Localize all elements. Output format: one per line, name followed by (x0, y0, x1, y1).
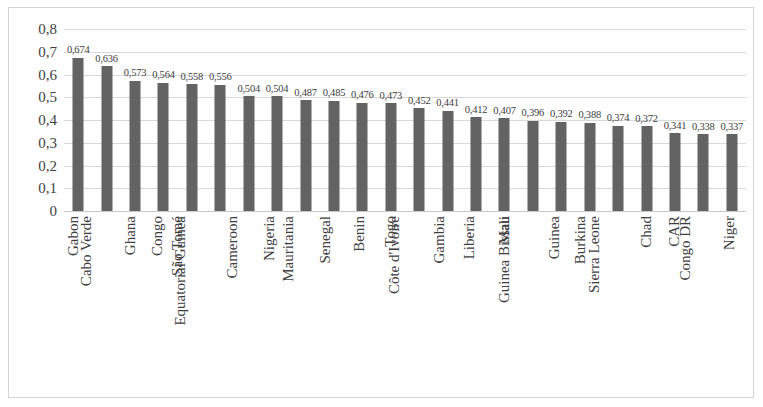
x-axis-tick-label: Cameroon (217, 154, 232, 216)
y-axis: 0,80,70,60,50,40,30,20,10 (17, 29, 57, 211)
x-axis-tick-label: Gambia (424, 169, 439, 216)
x-axis-tick-label: Congo (143, 176, 158, 216)
x-axis-tick-label: Burkina (566, 168, 581, 216)
bar[interactable] (613, 126, 624, 211)
bar-value-label: 0,374 (607, 113, 630, 124)
y-axis-tick-label: 0,1 (17, 181, 57, 196)
bar-value-label: 0,476 (351, 90, 374, 101)
x-axis-tick-label-text: Senegal (318, 216, 333, 263)
x-axis-label-slot: Congo DR (689, 214, 717, 394)
chart-frame: 0,80,70,60,50,40,30,20,10 0,6740,6360,57… (8, 7, 754, 398)
bar-value-label: 0,573 (124, 68, 147, 79)
bar-value-label: 0,504 (266, 84, 289, 95)
bar-value-label: 0,674 (67, 45, 90, 56)
x-axis-label-slot: Chad (632, 214, 660, 394)
bar-slot: 0,558 (178, 29, 206, 211)
bar[interactable] (442, 111, 453, 211)
x-axis-tick-label-text: Equatorial Guinea (173, 216, 188, 326)
y-axis-tick-label: 0,8 (17, 22, 57, 37)
x-axis-tick-label: Guinea Bissau (489, 129, 504, 216)
bar[interactable] (328, 101, 339, 211)
bar[interactable] (186, 84, 197, 211)
bar-value-label: 0,485 (323, 88, 346, 99)
x-axis-tick-label-text: Côte d'Ivoire (388, 216, 403, 294)
x-axis-label-slot: Cameroon (235, 214, 263, 394)
x-axis-tick-label-text: Gambia (431, 216, 446, 263)
bar-slot: 0,338 (689, 29, 717, 211)
bar-value-label: 0,372 (635, 114, 658, 125)
x-axis-tick-label-text: Guinea (547, 216, 562, 259)
bar-value-label: 0,341 (664, 121, 687, 132)
y-axis-tick-label: 0,3 (17, 135, 57, 150)
bar-value-label: 0,412 (465, 105, 488, 116)
bar[interactable] (698, 134, 709, 211)
bar-value-label: 0,452 (408, 96, 431, 107)
x-axis-tick-label-text: Cameroon (225, 216, 240, 278)
x-axis-tick-label-text: Niger (722, 216, 737, 250)
x-axis-label-slot: Niger (718, 214, 746, 394)
x-axis-tick-label-text: Mauritania (280, 216, 295, 282)
x-axis-tick-label: Equatorial Guinea (166, 106, 181, 216)
x-axis-tick-label: Côte d'Ivoire (380, 138, 395, 216)
y-axis-tick-label: 0,5 (17, 90, 57, 105)
x-axis-label-slot: Senegal (320, 214, 348, 394)
x-axis-label-slot: Mauritania (291, 214, 319, 394)
y-axis-tick-label: 0,7 (17, 44, 57, 59)
bar-value-label: 0,558 (181, 72, 204, 83)
bar-value-label: 0,473 (379, 91, 402, 102)
x-axis-tick-label-text: Congo (151, 216, 166, 256)
x-axis-tick-label: Benin (344, 180, 359, 216)
x-axis-tick-label: Niger (715, 182, 730, 216)
bar-value-label: 0,636 (95, 54, 118, 65)
x-axis-tick-label-text: Ghana (123, 216, 138, 255)
x-axis-tick-label: Guinea (540, 173, 555, 216)
bar-value-label: 0,388 (578, 110, 601, 121)
x-axis-category-labels: GabonCabo VerdeGhanaCongoSão ToméEquator… (64, 214, 746, 394)
bar[interactable] (130, 81, 141, 211)
x-axis-tick-label-text: Benin (352, 216, 367, 252)
bar[interactable] (527, 121, 538, 211)
x-axis-tick-label-text: Chad (638, 216, 653, 248)
bar-value-label: 0,564 (152, 70, 175, 81)
x-axis-tick-label: Liberia (454, 173, 469, 216)
x-axis-label-slot: Guinea (547, 214, 575, 394)
x-axis-tick-label: Senegal (310, 169, 325, 216)
bar-value-label: 0,556 (209, 72, 232, 83)
bar-value-label: 0,338 (692, 122, 715, 133)
x-axis-label-slot: Benin (348, 214, 376, 394)
bar-slot: 0,374 (604, 29, 632, 211)
x-axis-tick-label: Cabo Verde (72, 146, 87, 216)
x-axis-tick-label-text: Guinea Bissau (497, 216, 512, 303)
x-axis-tick-label: Nigeria (255, 171, 270, 216)
bar[interactable] (414, 108, 425, 211)
x-axis-tick-label-text: Liberia (462, 216, 477, 259)
x-axis-tick-label-text: Nigeria (262, 216, 277, 261)
x-axis-label-slot: Cabo Verde (92, 214, 120, 394)
x-axis-label-slot: Liberia (462, 214, 490, 394)
x-axis-tick-label: Chad (631, 184, 646, 216)
bar-value-label: 0,407 (493, 106, 516, 117)
bar-value-label: 0,392 (550, 109, 573, 120)
x-axis-tick-label: Sierra Leone (580, 139, 595, 216)
x-axis-label-slot: Sierra Leone (604, 214, 632, 394)
bar-value-label: 0,337 (720, 122, 743, 133)
bar[interactable] (243, 96, 254, 211)
x-axis-label-slot: Guinea Bissau (519, 214, 547, 394)
x-axis-tick-label-text: Sierra Leone (587, 216, 602, 293)
x-axis-tick-label-text: Congo DR (679, 216, 694, 281)
x-axis-tick-label-text: Cabo Verde (79, 216, 94, 286)
x-axis-label-slot: Gambia (433, 214, 461, 394)
chart-plot-wrapper: 0,80,70,60,50,40,30,20,10 0,6740,6360,57… (9, 8, 755, 399)
y-axis-tick-label: 0,6 (17, 67, 57, 82)
bar-value-label: 0,487 (294, 88, 317, 99)
bar-value-label: 0,504 (237, 84, 260, 95)
y-axis-tick-label: 0,2 (17, 158, 57, 173)
y-axis-tick-label: 0,4 (17, 113, 57, 128)
bar[interactable] (471, 117, 482, 211)
x-axis-tick-label: Ghana (115, 177, 130, 216)
bar[interactable] (101, 66, 112, 211)
x-axis-tick-label: Congo DR (671, 151, 686, 216)
bar-value-label: 0,396 (522, 108, 545, 119)
y-axis-tick-label: 0 (17, 204, 57, 219)
x-axis-label-slot: Côte d'Ivoire (405, 214, 433, 394)
